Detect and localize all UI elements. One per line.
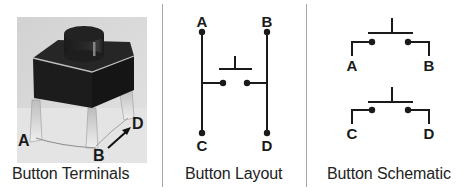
terminal-label-b: B	[93, 147, 105, 164]
switch-symbol-ab	[352, 18, 429, 56]
panel-button-layout: A B C D Button Layout	[163, 0, 306, 193]
caption-button-layout: Button Layout	[185, 164, 282, 184]
panel-button-terminals: A B D Button Terminals	[0, 0, 162, 193]
layout-label-b: B	[262, 13, 273, 30]
schematic-label-b: B	[424, 57, 435, 74]
panel-button-schematic: A B C D Button Schematic	[307, 0, 474, 193]
layout-label-a: A	[197, 13, 208, 30]
terminal-label-d: D	[132, 115, 144, 132]
switch-symbol-cd	[352, 87, 429, 124]
schematic-label-c: C	[347, 125, 358, 142]
caption-button-schematic: Button Schematic	[327, 164, 451, 184]
layout-label-c: C	[197, 137, 208, 154]
caption-button-terminals: Button Terminals	[12, 164, 129, 184]
schematic-label-d: D	[424, 125, 435, 142]
layout-label-d: D	[262, 137, 273, 154]
schematic-label-a: A	[347, 57, 358, 74]
terminal-label-a: A	[18, 132, 30, 149]
